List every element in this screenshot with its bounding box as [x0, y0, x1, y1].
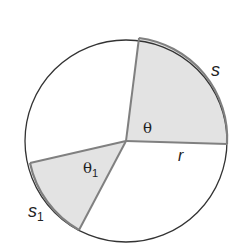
- label-r: r: [178, 147, 184, 164]
- label-s1: s1: [28, 201, 44, 224]
- circle-sector-diagram: θ θ1 r s s1: [0, 0, 237, 250]
- label-theta: θ: [143, 119, 152, 137]
- sector-theta1: [30, 141, 126, 230]
- label-s: s: [211, 60, 220, 80]
